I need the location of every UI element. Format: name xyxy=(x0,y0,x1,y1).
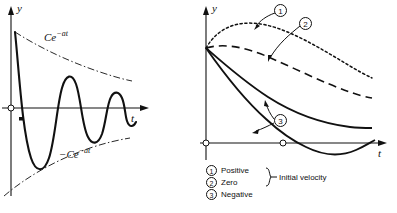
legend-label-positive: Positive xyxy=(221,166,249,175)
left-y-axis-label: y xyxy=(17,3,22,14)
left-origin-marker xyxy=(8,105,14,111)
right-t-axis-label: t xyxy=(378,148,381,159)
zero-crossing-marker xyxy=(280,140,286,146)
curve-negative-initial-velocity xyxy=(206,48,372,128)
left-t-axis xyxy=(2,105,149,111)
left-plot-canvas xyxy=(0,0,198,213)
left-t-axis-label: t xyxy=(131,113,134,124)
legend-title: Initial velocity xyxy=(279,173,327,182)
curve-strong-negative-initial-velocity xyxy=(206,48,375,154)
legend-item-positive: 1 Positive xyxy=(206,165,249,176)
legend-label-zero: Zero xyxy=(221,178,237,187)
right-origin-marker xyxy=(203,140,209,146)
callout-2: 2 xyxy=(299,17,312,30)
legend-marker-2: 2 xyxy=(206,177,217,188)
legend-label-negative: Negative xyxy=(221,190,253,199)
right-y-axis xyxy=(203,6,209,160)
legend-marker-3: 3 xyxy=(206,189,217,200)
right-y-axis-label: y xyxy=(212,3,217,14)
legend-item-negative: 3 Negative xyxy=(206,189,253,200)
callout-1-leader xyxy=(254,13,275,30)
underdamped-oscillation-plot: Ce−at −Ce−at y t xyxy=(0,0,198,213)
left-upper-envelope-curve xyxy=(15,32,132,81)
legend-marker-1: 1 xyxy=(206,165,217,176)
callout-3: 3 xyxy=(274,114,287,127)
curve-zero-initial-velocity xyxy=(206,46,372,98)
callout-1: 1 xyxy=(274,4,287,17)
lower-envelope-label: −Ce−at xyxy=(59,147,90,160)
legend-brace xyxy=(266,168,277,186)
legend-item-zero: 2 Zero xyxy=(206,177,237,188)
left-y-axis xyxy=(8,6,14,196)
initial-velocity-comparison-plot: y t 1 2 3 1 Positive 2 Zero 3 Negative I… xyxy=(198,0,397,213)
upper-envelope-label: Ce−at xyxy=(44,30,68,43)
figure-page: Ce−at −Ce−at y t xyxy=(0,0,397,213)
